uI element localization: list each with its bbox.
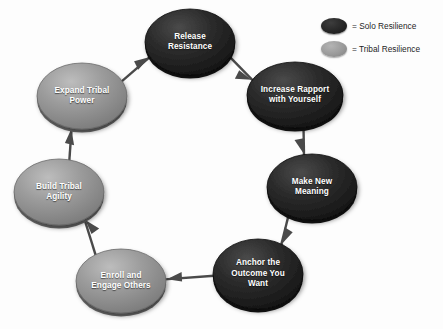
connector-expand-to-release bbox=[121, 56, 150, 81]
connector-anchor-to-enroll bbox=[165, 272, 214, 281]
node-increase-rapport-with-yourself[interactable] bbox=[247, 62, 343, 128]
node-enroll-and-engage-others[interactable] bbox=[76, 249, 166, 313]
legend-label-tribal: = Tribal Resilience bbox=[352, 44, 420, 54]
node-make-new-meaning[interactable] bbox=[267, 154, 357, 220]
node-build-tribal-agility[interactable] bbox=[14, 159, 104, 225]
legend: = Solo Resilience = Tribal Resilience bbox=[321, 14, 439, 60]
node-release-resistance[interactable] bbox=[145, 9, 235, 75]
legend-swatch-solo-icon bbox=[321, 18, 347, 34]
node-expand-tribal-power[interactable] bbox=[37, 63, 127, 129]
legend-label-solo: = Solo Resilience bbox=[352, 21, 416, 31]
legend-item-tribal: = Tribal Resilience bbox=[321, 37, 439, 60]
legend-item-solo: = Solo Resilience bbox=[321, 14, 439, 37]
connector-enroll-to-build bbox=[84, 218, 99, 255]
legend-swatch-tribal-icon bbox=[321, 41, 347, 57]
connector-release-to-increase bbox=[229, 56, 253, 80]
connector-build-to-expand bbox=[65, 127, 74, 161]
arrowhead-icon bbox=[295, 138, 304, 153]
diagram-canvas: Release ResistanceIncrease Rapport with … bbox=[0, 0, 443, 329]
node-anchor-the-outcome-you-want[interactable] bbox=[213, 239, 303, 309]
node-layer bbox=[14, 9, 357, 317]
